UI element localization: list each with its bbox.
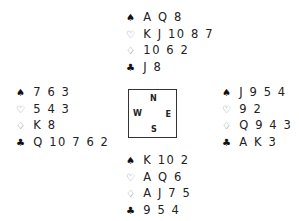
club-icon: ♣ <box>16 135 28 152</box>
west-diamonds-cards: K 8 <box>33 118 56 132</box>
north-diamonds-row: ♢ 10 6 2 <box>126 42 214 59</box>
east-clubs-row: ♣ A K 3 <box>222 134 292 151</box>
south-hearts-row: ♡ A Q 6 <box>126 169 191 186</box>
heart-icon: ♡ <box>126 27 138 44</box>
north-clubs-row: ♣ J 8 <box>126 59 214 76</box>
compass-east-label: E <box>165 109 171 119</box>
heart-icon: ♡ <box>126 170 138 187</box>
south-spades-cards: K 10 2 <box>143 153 189 167</box>
diamond-icon: ♢ <box>126 186 138 203</box>
east-clubs-cards: A K 3 <box>239 135 277 149</box>
south-hand: ♠ K 10 2 ♡ A Q 6 ♢ A J 7 5 ♣ 9 5 4 <box>126 152 191 218</box>
club-icon: ♣ <box>126 203 138 220</box>
diamond-icon: ♢ <box>126 43 138 60</box>
east-hand: ♠ J 9 5 4 ♡ 9 2 ♢ Q 9 4 3 ♣ A K 3 <box>222 84 292 150</box>
west-clubs-cards: Q 10 7 6 2 <box>33 135 109 149</box>
compass-south-label: S <box>151 124 157 134</box>
south-clubs-cards: 9 5 4 <box>143 203 180 217</box>
east-spades-row: ♠ J 9 5 4 <box>222 84 292 101</box>
north-hearts-cards: K J 10 8 7 <box>143 27 214 41</box>
compass-box: N W E S <box>128 89 177 138</box>
spade-icon: ♠ <box>222 85 234 102</box>
east-diamonds-row: ♢ Q 9 4 3 <box>222 117 292 134</box>
west-spades-row: ♠ 7 6 3 <box>16 84 110 101</box>
diamond-icon: ♢ <box>222 118 234 135</box>
heart-icon: ♡ <box>222 102 234 119</box>
west-clubs-row: ♣ Q 10 7 6 2 <box>16 134 110 151</box>
spade-icon: ♠ <box>126 10 138 27</box>
north-clubs-cards: J 8 <box>143 60 162 74</box>
north-spades-row: ♠ A Q 8 <box>126 9 214 26</box>
spade-icon: ♠ <box>16 85 28 102</box>
east-diamonds-cards: Q 9 4 3 <box>239 118 292 132</box>
north-hand: ♠ A Q 8 ♡ K J 10 8 7 ♢ 10 6 2 ♣ J 8 <box>126 9 214 75</box>
spade-icon: ♠ <box>126 153 138 170</box>
north-spades-cards: A Q 8 <box>143 10 183 24</box>
east-spades-cards: J 9 5 4 <box>239 85 287 99</box>
east-hearts-cards: 9 2 <box>239 102 262 116</box>
west-spades-cards: 7 6 3 <box>33 85 70 99</box>
south-diamonds-row: ♢ A J 7 5 <box>126 185 191 202</box>
north-hearts-row: ♡ K J 10 8 7 <box>126 26 214 43</box>
south-clubs-row: ♣ 9 5 4 <box>126 202 191 219</box>
south-hearts-cards: A Q 6 <box>143 170 183 184</box>
north-diamonds-cards: 10 6 2 <box>143 43 189 57</box>
club-icon: ♣ <box>126 60 138 77</box>
west-hearts-row: ♡ 5 4 3 <box>16 101 110 118</box>
west-hand: ♠ 7 6 3 ♡ 5 4 3 ♢ K 8 ♣ Q 10 7 6 2 <box>16 84 110 150</box>
west-hearts-cards: 5 4 3 <box>33 102 70 116</box>
east-hearts-row: ♡ 9 2 <box>222 101 292 118</box>
heart-icon: ♡ <box>16 102 28 119</box>
compass-north-label: N <box>150 93 157 103</box>
south-diamonds-cards: A J 7 5 <box>143 186 191 200</box>
south-spades-row: ♠ K 10 2 <box>126 152 191 169</box>
club-icon: ♣ <box>222 135 234 152</box>
diamond-icon: ♢ <box>16 118 28 135</box>
west-diamonds-row: ♢ K 8 <box>16 117 110 134</box>
compass-west-label: W <box>133 108 142 118</box>
